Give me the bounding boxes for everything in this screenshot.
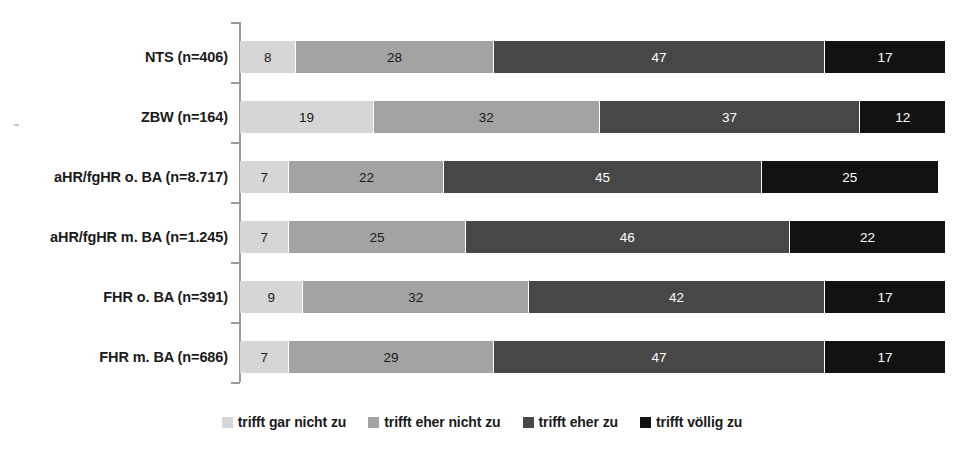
segment-value-label: 32 xyxy=(408,290,423,305)
axis-tick xyxy=(231,322,240,324)
bar-segment: 25 xyxy=(289,221,465,253)
bar-segment: 45 xyxy=(444,161,761,193)
segment-value-label: 45 xyxy=(595,170,610,185)
bar-segment: 17 xyxy=(825,281,945,313)
segment-value-label: 47 xyxy=(651,350,666,365)
bar-segment: 29 xyxy=(289,341,493,373)
category-label: NTS (n=406) xyxy=(0,49,228,65)
bar-segment: 17 xyxy=(825,41,945,73)
category-label: FHR m. BA (n=686) xyxy=(0,349,228,365)
bar-segment: 47 xyxy=(494,41,825,73)
legend-swatch-icon xyxy=(523,417,534,428)
bar-segment: 19 xyxy=(240,101,374,133)
segment-value-label: 25 xyxy=(369,230,384,245)
bar-segment: 7 xyxy=(240,161,289,193)
bar-segment: 37 xyxy=(600,101,861,133)
segment-value-label: 29 xyxy=(384,350,399,365)
legend-item[interactable]: trifft eher zu xyxy=(523,414,619,430)
plot-area: NTS (n=406)8284717ZBW (n=164)19323712aHR… xyxy=(0,0,964,400)
bar-row: 7224525 xyxy=(240,161,945,193)
segment-value-label: 25 xyxy=(842,170,857,185)
category-label: ZBW (n=164) xyxy=(0,109,228,125)
legend-item[interactable]: trifft völlig zu xyxy=(640,414,742,430)
segment-value-label: 9 xyxy=(267,290,275,305)
legend-item[interactable]: trifft gar nicht zu xyxy=(222,414,347,430)
axis-tick xyxy=(231,82,240,84)
segment-value-label: 7 xyxy=(260,350,268,365)
bar-segment: 42 xyxy=(529,281,825,313)
legend-item[interactable]: trifft eher nicht zu xyxy=(368,414,500,430)
legend-swatch-icon xyxy=(222,417,233,428)
category-label: FHR o. BA (n=391) xyxy=(0,289,228,305)
axis-tick xyxy=(231,262,240,264)
bar-segment: 8 xyxy=(240,41,296,73)
bar-segment: 22 xyxy=(289,161,444,193)
bar-segment: 32 xyxy=(303,281,529,313)
axis-tick xyxy=(231,22,240,24)
axis-tick xyxy=(231,142,240,144)
bar-row: 19323712 xyxy=(240,101,945,133)
segment-value-label: 12 xyxy=(895,110,910,125)
segment-value-label: 47 xyxy=(651,50,666,65)
bar-segment: 47 xyxy=(494,341,825,373)
legend-label: trifft gar nicht zu xyxy=(238,414,347,430)
bar-segment: 9 xyxy=(240,281,303,313)
bar-segment: 22 xyxy=(790,221,945,253)
bar-segment: 28 xyxy=(296,41,493,73)
bar-row: 8284717 xyxy=(240,41,945,73)
bar-segment: 32 xyxy=(374,101,600,133)
legend-label: trifft völlig zu xyxy=(656,414,742,430)
legend-label: trifft eher nicht zu xyxy=(384,414,500,430)
bar-segment: 7 xyxy=(240,221,289,253)
segment-value-label: 17 xyxy=(878,290,893,305)
bar-row: 7254622 xyxy=(240,221,945,253)
segment-value-label: 7 xyxy=(260,170,268,185)
segment-value-label: 32 xyxy=(479,110,494,125)
bar-segment: 7 xyxy=(240,341,289,373)
segment-value-label: 17 xyxy=(878,50,893,65)
segment-value-label: 46 xyxy=(620,230,635,245)
scan-artifact xyxy=(14,124,19,126)
legend-swatch-icon xyxy=(368,417,379,428)
bar-segment: 46 xyxy=(466,221,790,253)
bar-row: 7294717 xyxy=(240,341,945,373)
chart-legend: trifft gar nicht zutrifft eher nicht zut… xyxy=(0,414,964,430)
segment-value-label: 37 xyxy=(722,110,737,125)
category-label: aHR/fgHR o. BA (n=8.717) xyxy=(0,169,228,185)
legend-label: trifft eher zu xyxy=(539,414,619,430)
bar-segment: 17 xyxy=(825,341,945,373)
segment-value-label: 22 xyxy=(359,170,374,185)
legend-swatch-icon xyxy=(640,417,651,428)
segment-value-label: 19 xyxy=(299,110,314,125)
bar-row: 9324217 xyxy=(240,281,945,313)
axis-tick xyxy=(231,382,240,384)
segment-value-label: 17 xyxy=(878,350,893,365)
axis-tick xyxy=(231,202,240,204)
segment-value-label: 8 xyxy=(264,50,272,65)
stacked-bar-chart: NTS (n=406)8284717ZBW (n=164)19323712aHR… xyxy=(0,0,964,450)
segment-value-label: 22 xyxy=(860,230,875,245)
segment-value-label: 7 xyxy=(260,230,268,245)
bar-segment: 25 xyxy=(762,161,938,193)
segment-value-label: 42 xyxy=(669,290,684,305)
category-label: aHR/fgHR m. BA (n=1.245) xyxy=(0,229,228,245)
bar-segment: 12 xyxy=(860,101,945,133)
segment-value-label: 28 xyxy=(387,50,402,65)
